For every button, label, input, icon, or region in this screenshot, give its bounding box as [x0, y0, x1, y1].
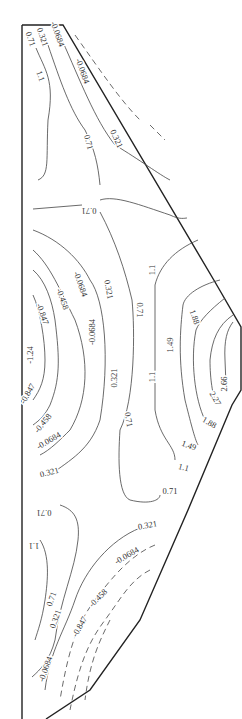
contour-label: 1.1 [147, 265, 157, 276]
contour-label: 2.66 [219, 377, 229, 392]
contour-label: -0.847 [18, 381, 38, 405]
contour-label: 1.49 [180, 438, 197, 452]
contour-label: 0.71 [37, 508, 52, 518]
contour-label: -0.847 [34, 302, 51, 326]
contour-label: 1.88 [201, 414, 219, 430]
contour-diagram: 0.710.321-0.0684-0.06841.10.710.3210.711… [0, 0, 242, 719]
contour-label: 0.321 [39, 465, 60, 480]
contour-label: 0.321 [102, 279, 115, 300]
contour-label: -0.0684 [72, 270, 91, 299]
contour-label: 0.71 [163, 486, 178, 496]
contour-label: -0.0684 [87, 318, 97, 345]
contour-label: 1.49 [165, 338, 175, 353]
contour-label: 1.1 [177, 461, 190, 473]
contour-label: -1.24 [25, 345, 35, 363]
contour-label: -0.0684 [74, 57, 93, 86]
contour-label: 1.1 [34, 69, 47, 82]
contour-label: 0.321 [109, 368, 119, 387]
contour-label: 0.321 [137, 518, 158, 531]
contour-label: 1.1 [29, 541, 40, 551]
contour-label: 1.1 [147, 372, 157, 383]
contour-label: 0.71 [24, 30, 38, 47]
contour-label: -0.0684 [49, 20, 68, 49]
contour-svg: 0.710.321-0.0684-0.06841.10.710.3210.711… [0, 0, 242, 719]
contour-label: -0.458 [87, 587, 110, 610]
contour-label: 0.71 [82, 134, 96, 151]
contour-label: -0.458 [32, 411, 54, 434]
contour-labels: 0.710.321-0.0684-0.06841.10.710.3210.711… [18, 20, 229, 683]
contour-label: -0.0684 [36, 654, 55, 683]
contour-label: 0.71 [123, 411, 135, 427]
contour-label: -0.458 [54, 287, 71, 311]
contour-label: -0.847 [70, 614, 90, 638]
contour-label: 0.321 [47, 608, 63, 629]
contour-label: 0.71 [135, 303, 145, 318]
contour-lines [32, 35, 233, 710]
contour-label: 0.71 [82, 206, 97, 216]
